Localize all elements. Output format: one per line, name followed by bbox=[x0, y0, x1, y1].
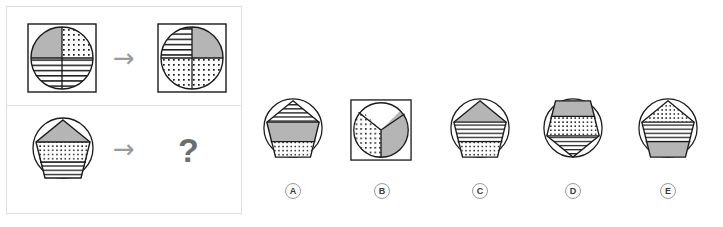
option-a-figure[interactable] bbox=[261, 96, 325, 160]
example-source-figure bbox=[27, 23, 97, 93]
option-b-figure[interactable] bbox=[350, 99, 412, 161]
option-b-label[interactable]: B bbox=[362, 183, 402, 199]
option-c-label[interactable]: C bbox=[460, 183, 500, 199]
question-mark-placeholder: ? bbox=[178, 133, 199, 167]
option-c-figure[interactable] bbox=[448, 96, 512, 160]
option-d-figure[interactable] bbox=[541, 96, 605, 160]
option-e-figure[interactable] bbox=[636, 96, 700, 160]
option-e-letter: E bbox=[660, 183, 676, 199]
question-row-arrow-icon: → bbox=[113, 136, 135, 162]
option-b-letter: B bbox=[374, 183, 390, 199]
panel-row-divider bbox=[6, 105, 242, 106]
option-c-letter: C bbox=[472, 183, 488, 199]
example-result-figure bbox=[157, 23, 227, 93]
option-a-label[interactable]: A bbox=[273, 183, 313, 199]
option-a-letter: A bbox=[285, 183, 301, 199]
option-e-label[interactable]: E bbox=[648, 183, 688, 199]
question-source-figure bbox=[30, 115, 96, 181]
example-row-arrow-icon: → bbox=[113, 45, 135, 71]
option-d-label[interactable]: D bbox=[553, 183, 593, 199]
option-d-letter: D bbox=[565, 183, 581, 199]
puzzle-stage: → → ? bbox=[0, 0, 723, 227]
